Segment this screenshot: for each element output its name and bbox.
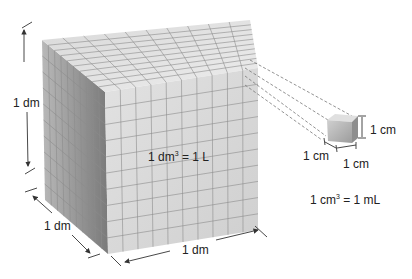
small-cube-height-label: 1 cm (370, 124, 396, 136)
large-cube-depth-label: 1 dm (44, 220, 71, 232)
small-cube-width-label: 1 cm (343, 158, 369, 170)
small-cube-depth-label: 1 cm (303, 150, 329, 162)
diagram-canvas: 1 dm 1 dm 1 dm 1 dm3 = 1 L 1 cm 1 cm 1 c… (0, 0, 412, 279)
large-cube-width-label: 1 dm (182, 244, 209, 256)
small-cube (327, 114, 358, 143)
large-cube-volume-equation: 1 dm3 = 1 L (148, 150, 209, 163)
cube-diagram-svg (0, 0, 412, 279)
large-cube-height-label: 1 dm (13, 97, 40, 109)
large-cube (42, 20, 258, 254)
small-cube-volume-equation: 1 cm3 = 1 mL (310, 193, 380, 206)
